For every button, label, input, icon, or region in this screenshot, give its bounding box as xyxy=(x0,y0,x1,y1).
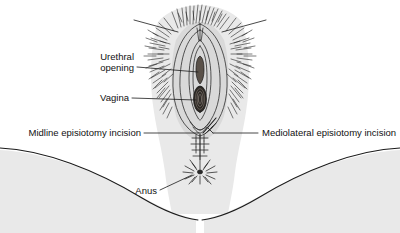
label-urethral-opening-line2: opening xyxy=(100,62,134,73)
label-vagina: Vagina xyxy=(100,92,130,103)
label-midline-episiotomy: Midline episiotomy incision xyxy=(29,127,141,138)
episiotomy-diagram: Episiotomy incision sites on the female … xyxy=(0,0,400,233)
label-urethral-opening-line1: Urethral xyxy=(100,51,134,62)
urethral-opening xyxy=(196,56,204,84)
label-anus: Anus xyxy=(135,185,157,196)
label-mediolateral-episiotomy: Mediolateral episiotomy incision xyxy=(262,127,396,138)
